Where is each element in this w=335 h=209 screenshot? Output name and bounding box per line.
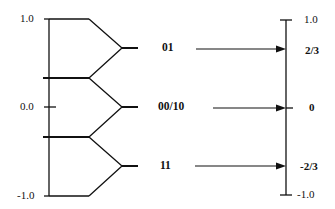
code-label-11: 11 <box>160 160 171 172</box>
right-tick-label-zero: 0 <box>309 102 315 113</box>
bracket-00-10 <box>89 78 122 137</box>
left-tick-label-top: 1.0 <box>20 13 34 24</box>
arrowhead-01 <box>276 46 286 53</box>
diagram-canvas: 1.0 0.0 -1.0 01 00/10 11 1.0 2/3 0 -2/3 … <box>0 0 335 209</box>
bracket-11 <box>89 137 122 196</box>
code-label-01: 01 <box>162 42 174 54</box>
right-tick-label-2-3: 2/3 <box>305 45 319 56</box>
bracket-01 <box>89 19 122 78</box>
arrowhead-11 <box>276 163 286 170</box>
right-tick-label-top: 1.0 <box>304 14 318 25</box>
left-tick-label-zero: 0.0 <box>20 101 34 112</box>
left-tick-label-bottom: -1.0 <box>17 190 34 201</box>
right-tick-label-bottom: -1.0 <box>297 189 314 200</box>
code-label-00-10: 00/10 <box>158 101 184 113</box>
right-tick-label-neg-2-3: -2/3 <box>300 161 318 172</box>
arrowhead-00-10 <box>276 105 286 112</box>
